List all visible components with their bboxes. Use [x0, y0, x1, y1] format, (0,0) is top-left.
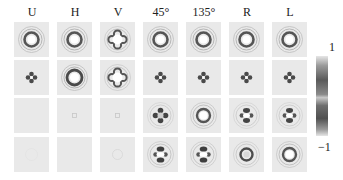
intensity-pattern-icon	[229, 98, 264, 133]
colorbar-min-label: −1	[318, 140, 331, 154]
intensity-pattern-icon	[57, 60, 92, 95]
panel-r4-135	[186, 137, 221, 172]
intensity-pattern-icon	[100, 98, 135, 133]
intensity-pattern-icon	[100, 60, 135, 95]
intensity-pattern-icon	[100, 22, 135, 57]
panel-r4-r	[229, 137, 264, 172]
panel-r1-u	[14, 22, 49, 57]
panel-r1-r	[229, 22, 264, 57]
panel-r3-l	[272, 98, 307, 133]
intensity-pattern-icon	[14, 22, 49, 57]
panel-r3-u	[14, 98, 49, 133]
panel-r4-l	[272, 137, 307, 172]
colorbar-max-label: 1	[329, 40, 335, 54]
intensity-pattern-icon	[186, 60, 221, 95]
panel-r2-r	[229, 60, 264, 95]
panel-r1-l	[272, 22, 307, 57]
panel-r1-135	[186, 22, 221, 57]
colorbar	[316, 56, 328, 136]
intensity-pattern-icon	[14, 98, 49, 133]
panel-r2-u	[14, 60, 49, 95]
panel-r1-h	[57, 22, 92, 57]
column-label-h: H	[57, 5, 93, 19]
intensity-pattern-icon	[57, 98, 92, 133]
panel-r4-h	[57, 137, 92, 172]
column-label-135: 135°	[186, 5, 222, 19]
panel-r1-45	[143, 22, 178, 57]
intensity-pattern-icon	[57, 22, 92, 57]
column-label-r: R	[229, 5, 265, 19]
intensity-pattern-icon	[143, 98, 178, 133]
panel-r2-l	[272, 60, 307, 95]
panel-r4-u	[14, 137, 49, 172]
panel-r3-135	[186, 98, 221, 133]
intensity-pattern-icon	[186, 22, 221, 57]
intensity-pattern-icon	[143, 137, 178, 172]
intensity-pattern-icon	[272, 22, 307, 57]
intensity-pattern-icon	[229, 22, 264, 57]
panel-r4-v	[100, 137, 135, 172]
panel-r1-v	[100, 22, 135, 57]
intensity-pattern-icon	[272, 98, 307, 133]
panel-r3-r	[229, 98, 264, 133]
intensity-pattern-icon	[186, 98, 221, 133]
panel-r3-v	[100, 98, 135, 133]
panel-r2-h	[57, 60, 92, 95]
panel-r3-h	[57, 98, 92, 133]
intensity-pattern-icon	[143, 22, 178, 57]
intensity-pattern-icon	[229, 60, 264, 95]
panel-r2-135	[186, 60, 221, 95]
column-label-45: 45°	[143, 5, 179, 19]
column-label-l: L	[272, 5, 308, 19]
intensity-pattern-icon	[272, 137, 307, 172]
panel-r2-45	[143, 60, 178, 95]
intensity-pattern-icon	[143, 60, 178, 95]
panel-r2-v	[100, 60, 135, 95]
intensity-pattern-icon	[186, 137, 221, 172]
panel-r3-45	[143, 98, 178, 133]
panel-r4-45	[143, 137, 178, 172]
intensity-pattern-icon	[14, 60, 49, 95]
intensity-pattern-icon	[100, 137, 135, 172]
column-label-v: V	[100, 5, 136, 19]
intensity-pattern-icon	[57, 137, 92, 172]
intensity-pattern-icon	[272, 60, 307, 95]
intensity-pattern-icon	[229, 137, 264, 172]
intensity-pattern-icon	[14, 137, 49, 172]
column-label-u: U	[14, 5, 50, 19]
